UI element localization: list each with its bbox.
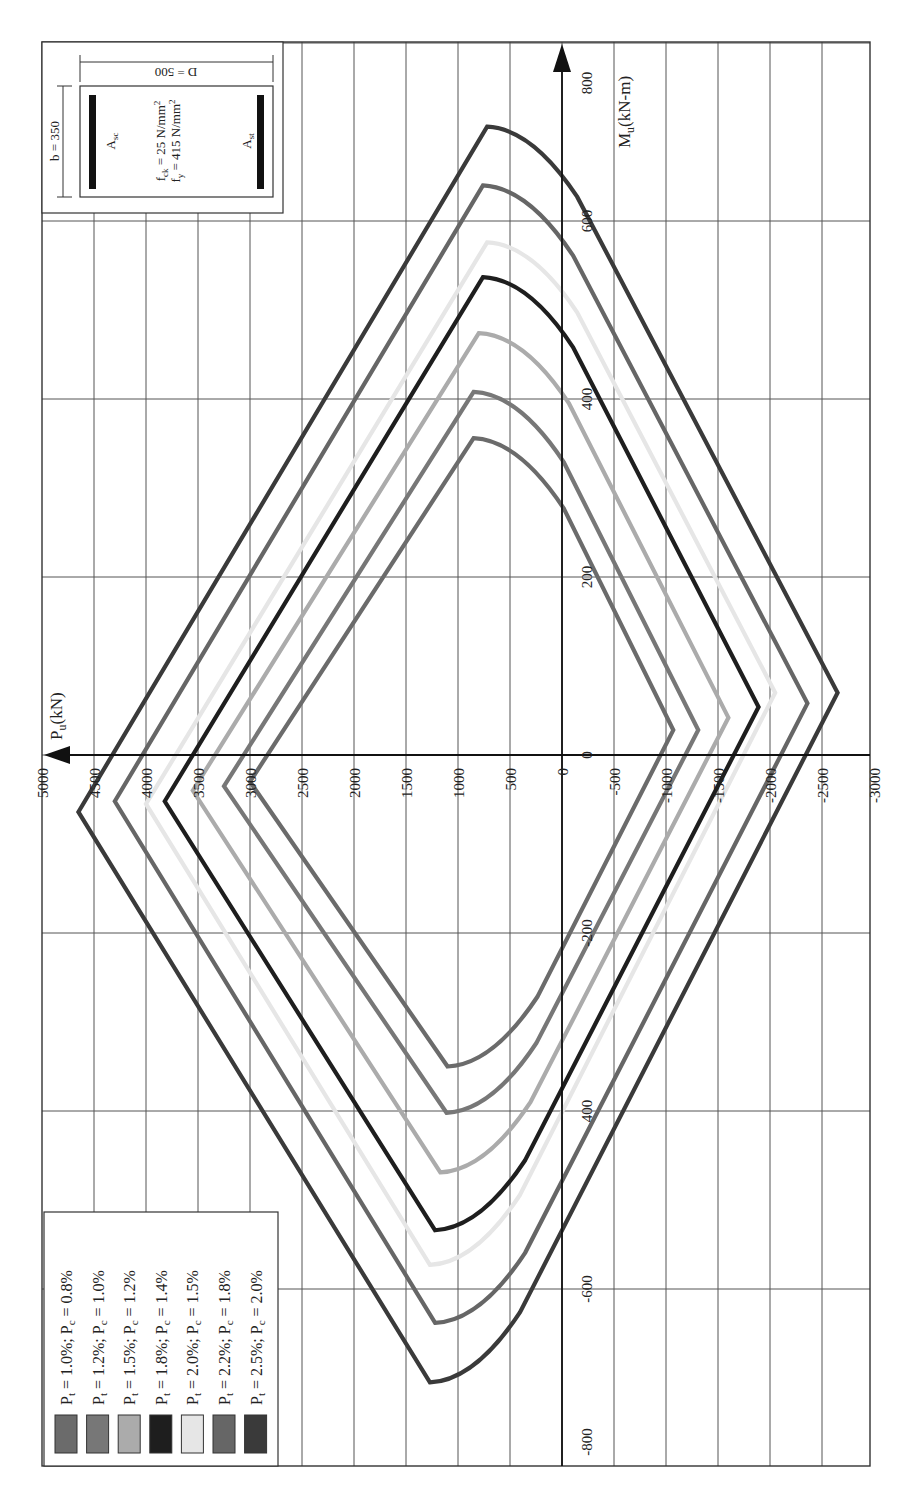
p-tick-label: 2500	[295, 768, 311, 798]
legend-swatch	[245, 1415, 267, 1453]
legend-label: Pt = 2.5%; Pc = 2.0%	[248, 1270, 267, 1405]
legend-label: Pt = 2.0%; Pc = 1.5%	[184, 1270, 203, 1405]
m-axis-title: Mu(kN-m)	[615, 76, 637, 148]
p-tick-label: 4000	[139, 768, 155, 798]
interaction-chart: 5000450040003500300025002000150010005000…	[0, 0, 908, 1500]
m-tick-label: -600	[579, 1275, 595, 1303]
legend-label: Pt = 1.5%; Pc = 1.2%	[121, 1270, 140, 1405]
depth-label-text: D = 500	[155, 65, 198, 80]
p-tick-label: 1000	[451, 768, 467, 798]
legend: Pt = 1.0%; Pc = 0.8%Pt = 1.2%; Pc = 1.0%…	[44, 1212, 278, 1466]
p-tick-label: 5000	[35, 768, 51, 798]
m-tick-label: 400	[579, 388, 595, 411]
p-tick-label: -1500	[711, 768, 727, 803]
legend-label: Pt = 1.2%; Pc = 1.0%	[90, 1270, 109, 1405]
legend-swatch	[87, 1415, 109, 1453]
compression-steel-bar	[89, 95, 96, 189]
legend-label: Pt = 2.2%; Pc = 1.8%	[216, 1270, 235, 1405]
legend-swatch	[181, 1415, 203, 1453]
p-tick-label: 1500	[399, 768, 415, 798]
legend-swatch	[118, 1415, 140, 1453]
interaction-curve	[165, 277, 759, 1230]
m-tick-label: 400	[579, 1100, 595, 1123]
m-axis-arrow-icon	[553, 44, 571, 72]
m-tick-label: -200	[579, 919, 595, 947]
p-axis-arrow-icon	[44, 746, 70, 764]
p-tick-label: 500	[503, 768, 519, 791]
p-tick-label: 0	[555, 768, 571, 776]
p-tick-label: -500	[607, 768, 623, 796]
p-tick-label: -2500	[815, 768, 831, 803]
legend-label: Pt = 1.8%; Pc = 1.4%	[153, 1270, 172, 1405]
section-sketch: D = 500 b = 350 Asc Ast fck = 25 N/mm2 f…	[42, 42, 283, 213]
p-tick-label: 2000	[347, 768, 363, 798]
m-tick-label: 800	[579, 72, 595, 95]
p-tick-label: -3000	[867, 768, 883, 803]
legend-label: Pt = 1.0%; Pc = 0.8%	[58, 1270, 77, 1405]
width-label: b = 350	[47, 121, 62, 161]
p-tick-label: -1000	[659, 768, 675, 803]
legend-swatch	[213, 1415, 235, 1453]
p-tick-label: 3000	[243, 768, 259, 798]
legend-swatch	[150, 1415, 172, 1453]
p-tick-label: 4500	[87, 768, 103, 798]
tension-steel-bar	[257, 95, 264, 189]
m-tick-label: 0	[579, 751, 595, 759]
p-tick-label: 3500	[191, 768, 207, 798]
m-tick-label: -800	[579, 1428, 595, 1456]
interaction-curve	[250, 438, 673, 1066]
fy-label: fy = 415 N/mm2	[167, 99, 185, 182]
m-tick-label: 200	[579, 566, 595, 589]
p-tick-label: -2000	[763, 768, 779, 803]
m-tick-label: 600	[579, 210, 595, 233]
legend-swatch	[55, 1415, 77, 1453]
p-axis-title: Pu(kN)	[47, 692, 69, 740]
